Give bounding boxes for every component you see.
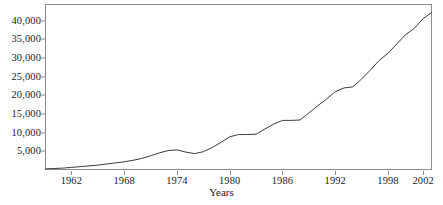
y-tick-label: 10,000 bbox=[0, 128, 41, 138]
x-tick-label: 1980 bbox=[219, 175, 240, 186]
x-tick-label: 1998 bbox=[377, 175, 398, 186]
series-1-line bbox=[45, 12, 432, 169]
y-tick-label: 20,000 bbox=[0, 90, 41, 100]
x-tick-label: 1974 bbox=[166, 175, 187, 186]
y-tick-label: 35,000 bbox=[0, 34, 41, 44]
line-chart-figure: 5,00010,00015,00020,00025,00030,00035,00… bbox=[0, 0, 443, 205]
y-axis: 5,00010,00015,00020,00025,00030,00035,00… bbox=[0, 4, 41, 170]
series-plot bbox=[45, 4, 432, 170]
x-tick-label: 2002 bbox=[413, 175, 434, 186]
y-tick-label: 25,000 bbox=[0, 72, 41, 82]
x-tick-label: 1986 bbox=[272, 175, 293, 186]
y-tick-label: 40,000 bbox=[0, 16, 41, 26]
x-axis-title: Years bbox=[0, 186, 443, 198]
y-tick-label: 30,000 bbox=[0, 53, 41, 63]
y-tick-label: 15,000 bbox=[0, 109, 41, 119]
x-tick-label: 1962 bbox=[61, 175, 82, 186]
x-tick-label: 1968 bbox=[113, 175, 134, 186]
x-tick-label: 1992 bbox=[325, 175, 346, 186]
y-tick-label: 5,000 bbox=[0, 146, 41, 156]
